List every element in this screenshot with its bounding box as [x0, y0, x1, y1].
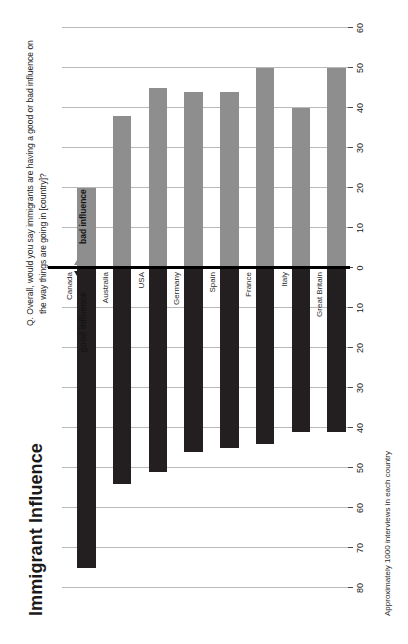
bar-row	[327, 28, 346, 588]
axis-tick	[348, 307, 353, 308]
axis-tick-label: 30	[355, 143, 365, 153]
question-label: Q. Overall, would you say immigrants are…	[24, 26, 50, 326]
category-label: France	[244, 272, 254, 297]
bar-row	[292, 28, 311, 588]
bar-bad-influence	[327, 68, 346, 268]
axis-tick	[348, 347, 353, 348]
figure: Immigrant Influence Q. Overall, would yo…	[0, 0, 408, 644]
bar-row	[77, 28, 96, 588]
bar-bad-influence	[184, 92, 203, 268]
zero-axis-line	[48, 267, 350, 270]
axis-tick-label: 70	[355, 543, 365, 553]
bar-bad-influence	[292, 108, 311, 268]
axis-tick	[348, 467, 353, 468]
bar-good-influence	[256, 268, 275, 444]
bar-good-influence	[327, 268, 346, 432]
bar-row	[184, 28, 203, 588]
bar-bad-influence	[113, 116, 132, 268]
category-label: Canada	[65, 272, 75, 300]
axis-tick-label: 80	[355, 583, 365, 593]
axis-tick-label: 20	[355, 343, 365, 353]
bar-bad-influence	[77, 188, 96, 268]
chart-page: Immigrant Influence Q. Overall, would yo…	[0, 0, 408, 644]
axis-tick-label: 60	[355, 503, 365, 513]
x-axis: 80706050403020100102030405060	[348, 28, 374, 588]
bar-good-influence	[184, 268, 203, 452]
plot-area: CanadaAustraliaUSAGermanySpainFranceItal…	[62, 28, 348, 588]
footnote: Approximately 1000 interviews in each co…	[383, 451, 392, 616]
rotated-figure: Immigrant Influence Q. Overall, would yo…	[0, 0, 408, 644]
axis-tick	[348, 67, 353, 68]
axis-tick	[348, 27, 353, 28]
category-label: Great Britain	[315, 272, 325, 317]
bar-row	[149, 28, 168, 588]
axis-tick	[348, 387, 353, 388]
axis-tick-label: 50	[355, 63, 365, 73]
category-label: Australia	[101, 272, 111, 303]
axis-tick-label: 40	[355, 103, 365, 113]
category-label: Italy	[280, 272, 290, 287]
bar-bad-influence	[256, 68, 275, 268]
bar-bad-influence	[149, 88, 168, 268]
axis-tick-label: 40	[355, 423, 365, 433]
page-title: Immigrant Influence	[26, 443, 47, 616]
axis-tick	[348, 147, 353, 148]
bar-good-influence	[220, 268, 239, 448]
axis-tick	[348, 107, 353, 108]
axis-tick-label: 20	[355, 183, 365, 193]
bar-row	[113, 28, 132, 588]
bar-good-influence	[292, 268, 311, 432]
axis-tick-label: 10	[355, 223, 365, 233]
axis-tick	[348, 427, 353, 428]
axis-tick-label: 10	[355, 303, 365, 313]
axis-tick-label: 50	[355, 463, 365, 473]
category-label: USA	[137, 272, 147, 288]
question-text: Q. Overall, would you say immigrants are…	[24, 26, 50, 326]
bar-good-influence	[113, 268, 132, 484]
bar-row	[256, 28, 275, 588]
axis-tick	[348, 587, 353, 588]
category-label: Spain	[208, 272, 218, 292]
bar-good-influence	[149, 268, 168, 472]
axis-tick-label: 30	[355, 383, 365, 393]
axis-tick	[348, 187, 353, 188]
category-label: Germany	[172, 272, 182, 305]
axis-tick-label: 60	[355, 23, 365, 33]
axis-tick-label: 0	[355, 265, 365, 270]
axis-tick	[348, 227, 353, 228]
bar-row	[220, 28, 239, 588]
axis-tick	[348, 547, 353, 548]
bar-good-influence	[77, 268, 96, 568]
bar-bad-influence	[220, 92, 239, 268]
axis-tick	[348, 507, 353, 508]
